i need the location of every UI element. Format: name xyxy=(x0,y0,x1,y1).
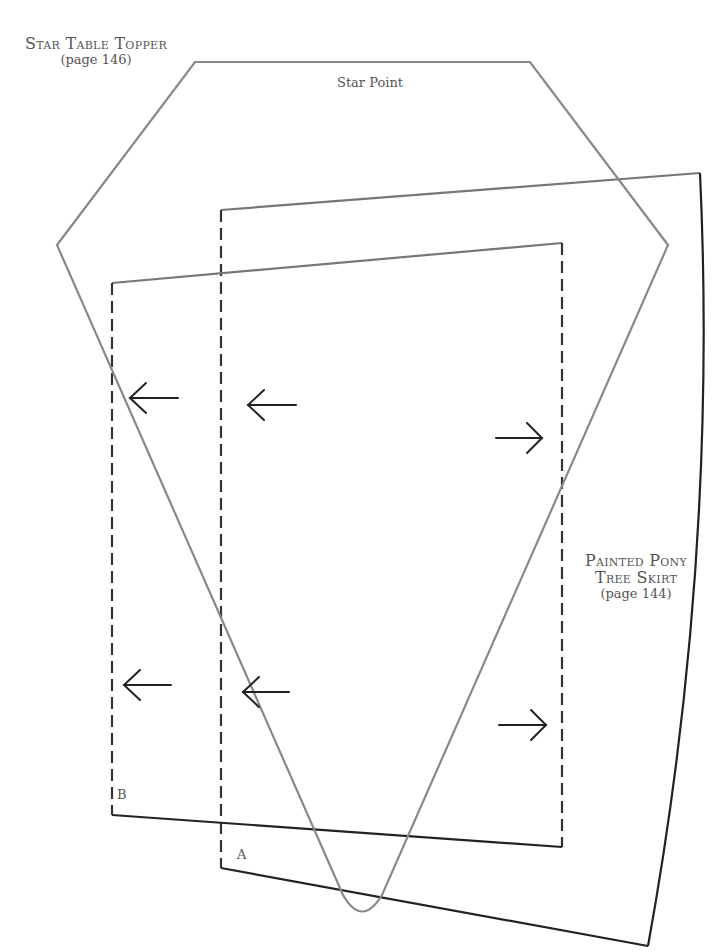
arrow-left-icon xyxy=(124,670,171,700)
piece-b-bottom-edge xyxy=(112,815,562,847)
star-table-topper-title: Star Table Topper (page 146) xyxy=(6,36,186,66)
star-point-outline xyxy=(57,62,668,912)
piece-b-letter: B xyxy=(117,787,127,802)
piece-a-letter: A xyxy=(237,847,246,862)
arrow-left-icon xyxy=(130,383,178,413)
piece-a-bottom-edge xyxy=(221,868,648,946)
page-reference: (page 146) xyxy=(6,53,186,67)
pattern-diagram xyxy=(0,0,719,952)
piece-a-label: A xyxy=(237,848,246,862)
piece-b-top-edge xyxy=(112,243,562,283)
star-point-text: Star Point xyxy=(337,75,403,90)
star-point-label: Star Point xyxy=(300,76,440,90)
piece-b-label: B xyxy=(117,788,127,802)
painted-pony-title: Painted Pony Tree Skirt (page 144) xyxy=(556,553,716,600)
project-name-line2: Tree Skirt xyxy=(556,570,716,587)
page-reference: (page 144) xyxy=(556,587,716,601)
arrow-right-icon xyxy=(496,423,542,453)
skirt-piece-b xyxy=(112,243,562,847)
project-name: Star Table Topper xyxy=(6,36,186,53)
arrow-right-icon xyxy=(499,710,546,740)
arrow-left-icon xyxy=(248,390,296,420)
